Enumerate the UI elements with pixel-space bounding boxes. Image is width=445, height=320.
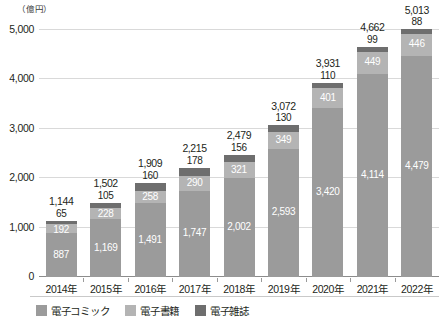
bar-segment[interactable]	[312, 83, 343, 88]
segment-value-label: 4,114	[357, 170, 388, 180]
segment-value-label: 1,747	[179, 228, 210, 238]
bar-segment[interactable]	[401, 29, 432, 33]
y-axis-tick-label: 1,000	[9, 221, 34, 233]
magazine-value-label: 156	[214, 143, 265, 153]
bar-series-container: 887192651,1441,1692281051,5021,491258160…	[39, 30, 439, 277]
bar-segment[interactable]: 449	[357, 52, 388, 74]
bar-segment[interactable]: 2,593	[268, 149, 299, 277]
segment-value-label: 446	[401, 39, 432, 49]
legend-label: 電子雑誌	[210, 303, 249, 318]
segment-value-label: 1,169	[90, 243, 121, 253]
bar-segment[interactable]: 2,002	[224, 178, 255, 277]
bar-segment[interactable]: 446	[401, 34, 432, 56]
bar-segment[interactable]: 3,420	[312, 108, 343, 277]
bar-group[interactable]: 1,7472901782,215	[179, 168, 210, 277]
bar-segment[interactable]: 4,114	[357, 74, 388, 277]
bar-segment[interactable]: 258	[135, 191, 166, 204]
bar-total-label: 4,662	[347, 22, 398, 33]
stacked-bar-chart: （億円） 01,0002,0003,0004,0005,000 88719265…	[0, 0, 445, 320]
bar-segment[interactable]: 401	[312, 88, 343, 108]
legend-swatch-icon	[195, 305, 206, 316]
x-axis-tick-mark	[395, 278, 396, 282]
legend-swatch-icon	[125, 305, 136, 316]
y-axis-tick-label: 3,000	[9, 122, 34, 134]
segment-value-label: 887	[46, 250, 77, 260]
x-axis-tick-label: 2015年	[83, 281, 127, 296]
x-axis-tick-label: 2018年	[217, 281, 261, 296]
bar-group[interactable]: 4,114449994,662	[357, 47, 388, 277]
bar-segment[interactable]	[224, 155, 255, 163]
x-axis-tick-label: 2021年	[350, 281, 394, 296]
bar-total-label: 1,502	[80, 178, 131, 189]
segment-value-label: 2,002	[224, 222, 255, 232]
bar-total-label: 1,909	[125, 158, 176, 169]
bar-segment[interactable]	[90, 203, 121, 208]
bar-group[interactable]: 887192651,144	[46, 221, 77, 278]
bar-segment[interactable]	[357, 47, 388, 52]
y-axis-unit-label: （億円）	[17, 2, 52, 14]
magazine-value-label: 99	[347, 35, 398, 45]
bar-segment[interactable]: 887	[46, 233, 77, 277]
bar-group[interactable]: 2,5933491303,072	[268, 125, 299, 277]
segment-value-label: 349	[268, 135, 299, 145]
segment-value-label: 290	[179, 178, 210, 188]
bar-segment[interactable]: 349	[268, 132, 299, 149]
segment-value-label: 1,491	[135, 235, 166, 245]
x-axis-tick-mark	[83, 278, 84, 282]
segment-value-label: 2,593	[268, 207, 299, 217]
bar-group[interactable]: 1,1692281051,502	[90, 203, 121, 277]
magazine-value-label: 65	[36, 209, 87, 219]
bar-group[interactable]: 2,0023211562,479	[224, 155, 255, 277]
x-axis-tick-label: 2016年	[128, 281, 172, 296]
bar-segment[interactable]	[46, 221, 77, 224]
segment-value-label: 401	[312, 93, 343, 103]
magazine-value-label: 130	[258, 113, 309, 123]
y-axis-tick-label: 4,000	[9, 72, 34, 84]
legend-label: 電子コミック	[51, 303, 109, 318]
plot-area: 01,0002,0003,0004,0005,000 887192651,144…	[39, 30, 439, 277]
x-axis-tick-mark	[172, 278, 173, 282]
bar-segment[interactable]: 228	[90, 208, 121, 219]
y-axis-tick-label: 0	[28, 270, 34, 282]
x-axis-tick-mark	[217, 278, 218, 282]
bar-group[interactable]: 3,4204011103,931	[312, 83, 343, 277]
magazine-value-label: 110	[302, 71, 353, 81]
bar-segment[interactable]: 1,169	[90, 219, 121, 277]
magazine-value-label: 160	[125, 171, 176, 181]
x-axis-tick-mark	[306, 278, 307, 282]
bar-group[interactable]: 4,479446885,013	[401, 29, 432, 277]
segment-value-label: 321	[224, 165, 255, 175]
x-axis-rule	[30, 296, 439, 297]
x-axis-tick-label: 2019年	[261, 281, 305, 296]
bar-segment[interactable]	[179, 168, 210, 177]
x-axis-tick-mark	[350, 278, 351, 282]
x-axis-tick-label: 2022年	[395, 281, 439, 296]
legend-swatch-icon	[36, 305, 47, 316]
bar-segment[interactable]: 1,491	[135, 203, 166, 277]
segment-value-label: 3,420	[312, 187, 343, 197]
y-axis-tick-label: 2,000	[9, 171, 34, 183]
segment-value-label: 449	[357, 57, 388, 67]
bar-segment[interactable]	[268, 125, 299, 131]
x-axis-tick-label: 2017年	[172, 281, 216, 296]
legend-item[interactable]: 電子雑誌	[195, 303, 249, 318]
x-axis-tick-label: 2014年	[39, 281, 83, 296]
legend-label: 電子書籍	[140, 303, 179, 318]
magazine-value-label: 178	[169, 156, 220, 166]
bar-segment[interactable]: 1,747	[179, 191, 210, 277]
bar-segment[interactable]: 321	[224, 162, 255, 178]
bar-total-label: 2,479	[214, 130, 265, 141]
bar-segment[interactable]: 4,479	[401, 56, 432, 277]
bar-segment[interactable]	[135, 183, 166, 191]
bar-total-label: 3,072	[258, 101, 309, 112]
segment-value-label: 258	[135, 192, 166, 202]
bar-total-label: 3,931	[302, 58, 353, 69]
legend-item[interactable]: 電子コミック	[36, 303, 109, 318]
segment-value-label: 4,479	[401, 161, 432, 171]
bar-total-label: 1,144	[36, 196, 87, 207]
bar-segment[interactable]: 192	[46, 224, 77, 233]
bar-group[interactable]: 1,4912581601,909	[135, 183, 166, 277]
magazine-value-label: 88	[391, 17, 442, 27]
bar-segment[interactable]: 290	[179, 176, 210, 190]
legend-item[interactable]: 電子書籍	[125, 303, 179, 318]
